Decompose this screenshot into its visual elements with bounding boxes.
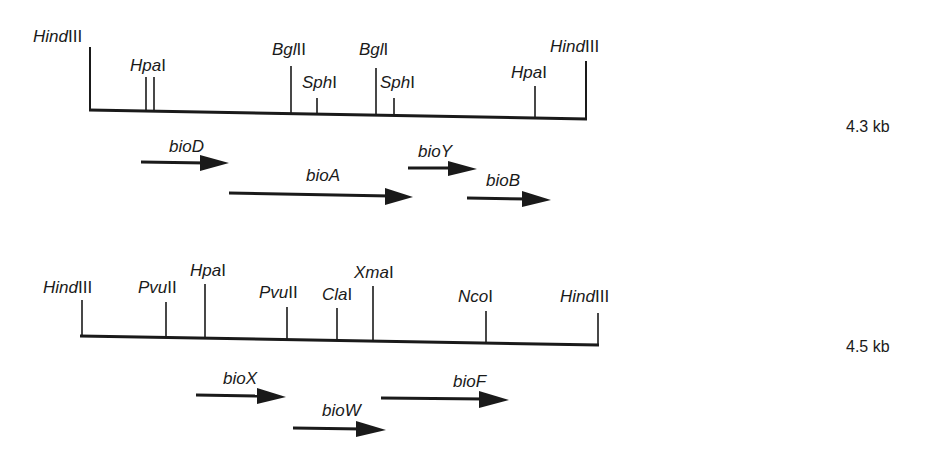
gene-arrow-bioy: bioY <box>408 142 477 176</box>
site-label-hindiii-right: HindIII <box>550 37 599 56</box>
site-label-hpai: HpaI <box>190 261 226 280</box>
gene-arrow-bioa: bioA <box>229 166 413 205</box>
gene-label: bioY <box>418 142 454 161</box>
arrowhead-icon <box>522 191 551 207</box>
site-label-hindiii-left: HindIII <box>43 278 92 297</box>
site-label-hpai: HpaI <box>130 56 166 75</box>
site-label-sphi-1: SphI <box>302 73 337 92</box>
arrowhead-icon <box>356 421 386 437</box>
arrowhead-icon <box>385 188 413 205</box>
gene-arrow-biod: bioD <box>141 137 229 171</box>
site-label-hindiii-left: HindIII <box>33 27 82 46</box>
restriction-map-4-5kb: HindIII PvuII HpaI PvuII ClaI XmaI NcoI … <box>43 261 890 437</box>
site-label-xmai: XmaI <box>353 263 394 282</box>
arrowhead-icon <box>448 161 477 176</box>
restriction-map-4-3kb: HindIII HpaI BglII SphI BglI SphI HpaI H… <box>33 27 890 207</box>
gene-arrow-biox: bioX <box>196 369 286 404</box>
arrowhead-icon <box>257 388 286 404</box>
arrowhead-icon <box>479 391 509 408</box>
gene-label: bioX <box>223 369 258 388</box>
site-label-pvuii-1: PvuII <box>138 278 177 297</box>
site-label-hpai-right: HpaI <box>511 63 547 82</box>
restriction-map-diagram: HindIII HpaI BglII SphI BglI SphI HpaI H… <box>0 0 947 465</box>
fragment-size-label: 4.3 kb <box>846 118 890 135</box>
dna-baseline <box>80 336 599 345</box>
gene-arrow-biob: bioB <box>467 171 551 207</box>
site-label-bgli: BglI <box>359 40 388 59</box>
gene-label: bioA <box>306 166 340 185</box>
site-label-sphi-2: SphI <box>380 73 415 92</box>
site-label-bglii: BglII <box>272 40 306 59</box>
site-label-hindiii-right: HindIII <box>560 287 609 306</box>
gene-label: bioB <box>486 171 520 190</box>
gene-arrow-biof: bioF <box>381 372 509 408</box>
gene-label: bioF <box>453 372 488 391</box>
site-label-ncoi: NcoI <box>458 287 493 306</box>
gene-label: bioW <box>322 401 363 420</box>
gene-arrow-biow: bioW <box>293 401 386 437</box>
fragment-size-label: 4.5 kb <box>846 338 890 355</box>
site-label-pvuii-2: PvuII <box>259 283 298 302</box>
arrowhead-icon <box>200 155 229 171</box>
dna-baseline <box>89 110 587 119</box>
site-label-clai: ClaI <box>322 285 352 304</box>
gene-label: bioD <box>169 137 204 156</box>
